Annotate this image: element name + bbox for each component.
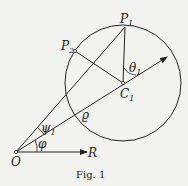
label-p2: P2 [60, 39, 74, 55]
geometry-diagram: P1 P2 C1 θ1 ψ1 ϱ φ O R Fig. 1 [0, 0, 188, 186]
label-rho: ϱ [82, 108, 89, 122]
label-p1: P1 [119, 12, 133, 28]
label-r: R [87, 146, 97, 160]
label-theta1: θ1 [129, 61, 141, 77]
label-psi1: ψ1 [41, 121, 56, 137]
point-o [14, 150, 17, 153]
label-c1: C1 [120, 87, 134, 103]
figure-caption: Fig. 1 [76, 169, 105, 180]
arc-phi [35, 140, 37, 152]
label-phi: φ [38, 137, 47, 151]
line-p2-c1 [75, 51, 123, 83]
line-p1-c1 [123, 27, 125, 83]
label-o: O [11, 155, 21, 169]
point-c1 [121, 81, 124, 84]
